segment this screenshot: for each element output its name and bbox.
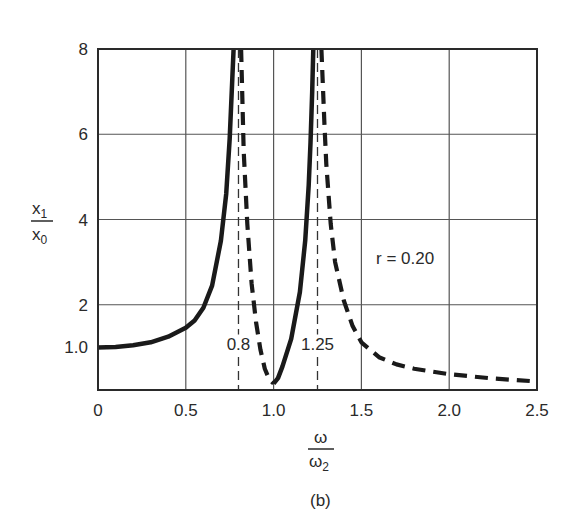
y-tick-label: 6 xyxy=(79,125,88,144)
y-tick-label: 1.0 xyxy=(64,338,88,357)
x-tick-labels: 00.51.01.52.02.5 xyxy=(93,401,549,420)
y-tick-labels: 1.02468 xyxy=(64,40,88,357)
curve-segment-4 xyxy=(321,49,537,382)
y-label-numerator: x1 xyxy=(32,199,48,221)
frequency-response-chart: 00.51.01.52.02.5 1.02468 0.81.25 r = 0.2… xyxy=(0,0,571,532)
curve-segment-2 xyxy=(241,49,274,384)
marker-labels: 0.81.25 xyxy=(225,335,336,354)
y-tick-label: 8 xyxy=(79,40,88,59)
marker-label: 0.8 xyxy=(227,335,251,354)
x-label-numerator: ω xyxy=(314,428,327,447)
x-tick-label: 0.5 xyxy=(174,401,198,420)
y-tick-label: 4 xyxy=(79,211,88,230)
y-tick-label: 2 xyxy=(79,296,88,315)
figure-caption: (b) xyxy=(310,491,331,510)
y-label-denominator: x0 xyxy=(32,225,48,247)
x-axis-label: ω ω2 xyxy=(308,428,334,474)
x-tick-label: 2.5 xyxy=(525,401,549,420)
x-tick-label: 2.0 xyxy=(437,401,461,420)
curve-segment-1 xyxy=(98,49,234,347)
r-annotation: r = 0.20 xyxy=(376,249,434,268)
x-label-denominator: ω2 xyxy=(309,452,329,474)
x-tick-label: 1.5 xyxy=(350,401,374,420)
y-axis-label: x1 x0 xyxy=(31,199,53,247)
curve-segment-3 xyxy=(274,49,314,384)
x-tick-label: 0 xyxy=(93,401,102,420)
marker-label: 1.25 xyxy=(301,335,334,354)
x-tick-label: 1.0 xyxy=(262,401,286,420)
